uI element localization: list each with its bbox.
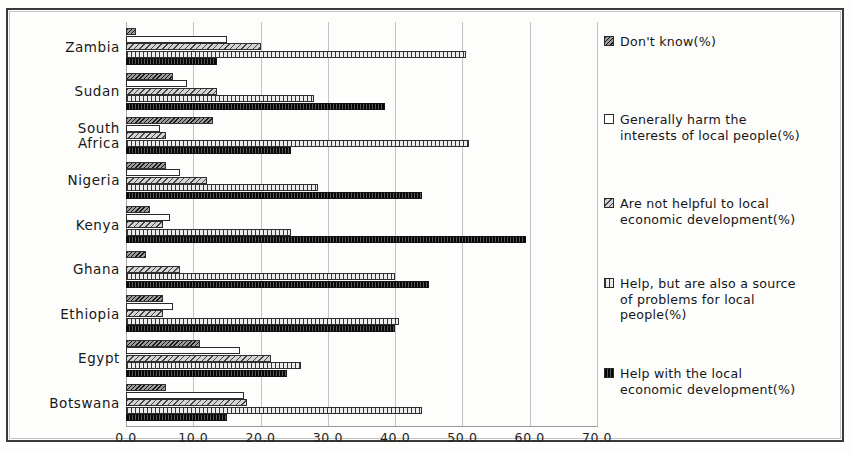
bar-group: [126, 22, 597, 67]
bar: [126, 95, 314, 102]
chart-page: ZambiaSudanSouthAfricaNigeriaKenyaGhanaE…: [0, 0, 852, 453]
legend-label-line: economic development(%): [620, 212, 795, 228]
legend-label: Don't know(%): [620, 34, 716, 50]
y-axis-label-line: South: [2, 121, 120, 136]
y-axis-label-line: Egypt: [2, 351, 120, 366]
x-axis-tick-label: 0.0: [115, 430, 137, 445]
y-axis-label-sudan: Sudan: [2, 84, 120, 99]
bar: [126, 362, 301, 369]
x-axis-tick-label: 10.0: [178, 430, 208, 445]
legend-swatch-icon: [604, 198, 614, 208]
bar: [126, 407, 422, 414]
bar: [126, 370, 287, 377]
x-axis-tick-label: 20.0: [245, 430, 275, 445]
bar: [126, 51, 466, 58]
y-axis-label-south-africa: SouthAfrica: [2, 121, 120, 151]
y-axis-label-zambia: Zambia: [2, 40, 120, 55]
legend-label: Help, but are also a sourceof problems f…: [620, 276, 796, 323]
bar: [126, 399, 247, 406]
y-axis-label-ethiopia: Ethiopia: [2, 307, 120, 322]
bar-group: [126, 378, 597, 423]
legend-label-line: Help, but are also a source: [620, 276, 796, 292]
bar: [126, 273, 395, 280]
bar-group: [126, 245, 597, 290]
y-axis-label-egypt: Egypt: [2, 351, 120, 366]
bar: [126, 303, 173, 310]
bar: [126, 221, 163, 228]
legend-label-line: Don't know(%): [620, 34, 716, 50]
bar: [126, 414, 227, 421]
legend-swatch-icon: [604, 368, 614, 378]
legend-label-line: Help with the local: [620, 366, 795, 382]
legend-swatch-icon: [604, 36, 614, 46]
bar: [126, 355, 271, 362]
x-axis-tick-label: 50.0: [447, 430, 477, 445]
bar: [126, 266, 180, 273]
legend-label-line: Generally harm the: [620, 112, 800, 128]
bar: [126, 103, 385, 110]
legend-label: Generally harm theinterests of local peo…: [620, 112, 800, 143]
bar: [126, 340, 200, 347]
bar: [126, 184, 318, 191]
bar: [126, 229, 291, 236]
bar: [126, 73, 173, 80]
bar: [126, 192, 422, 199]
y-axis-label-line: Kenya: [2, 218, 120, 233]
legend-label-line: economic development(%): [620, 382, 795, 398]
bar-group: [126, 289, 597, 334]
x-axis-tick-label: 70.0: [582, 430, 612, 445]
bar-group: [126, 111, 597, 156]
x-axis-tick-label: 40.0: [380, 430, 410, 445]
plot-area: [126, 22, 597, 426]
legend-item-harm[interactable]: Generally harm theinterests of local peo…: [604, 112, 842, 143]
legend-swatch-icon: [604, 278, 614, 288]
bar: [126, 162, 166, 169]
legend-label-line: Are not helpful to local: [620, 196, 795, 212]
legend-label-line: interests of local people(%): [620, 128, 800, 144]
bar: [126, 295, 163, 302]
x-axis-line: [126, 426, 598, 427]
bar: [126, 88, 217, 95]
bar: [126, 177, 207, 184]
bar: [126, 140, 469, 147]
legend-item-nothelp[interactable]: Are not helpful to localeconomic develop…: [604, 196, 842, 227]
y-axis-label-line: Zambia: [2, 40, 120, 55]
bar-group: [126, 156, 597, 201]
bar: [126, 236, 526, 243]
bar: [126, 117, 213, 124]
bar: [126, 347, 240, 354]
y-axis-labels: ZambiaSudanSouthAfricaNigeriaKenyaGhanaE…: [0, 0, 120, 453]
x-axis-tick-label: 30.0: [313, 430, 343, 445]
legend-item-dontknow[interactable]: Don't know(%): [604, 34, 842, 50]
bar: [126, 325, 395, 332]
y-axis-label-ghana: Ghana: [2, 262, 120, 277]
bar: [126, 251, 146, 258]
bar-group: [126, 67, 597, 112]
bar: [126, 58, 217, 65]
y-axis-label-line: Africa: [2, 136, 120, 151]
bar: [126, 206, 150, 213]
legend-label: Are not helpful to localeconomic develop…: [620, 196, 795, 227]
bar: [126, 310, 163, 317]
legend-label-line: people(%): [620, 307, 796, 323]
gridline-70: [597, 22, 598, 426]
legend-label: Help with the localeconomic development(…: [620, 366, 795, 397]
bar: [126, 43, 261, 50]
bar-group: [126, 200, 597, 245]
bar: [126, 125, 160, 132]
bar: [126, 147, 291, 154]
y-axis-label-line: Ghana: [2, 262, 120, 277]
bar-group: [126, 334, 597, 379]
y-axis-label-line: Ethiopia: [2, 307, 120, 322]
legend-item-helpbut[interactable]: Help, but are also a sourceof problems f…: [604, 276, 842, 323]
bar: [126, 392, 244, 399]
y-axis-label-line: Nigeria: [2, 173, 120, 188]
bar: [126, 281, 429, 288]
y-axis-label-nigeria: Nigeria: [2, 173, 120, 188]
legend-label-line: of problems for local: [620, 292, 796, 308]
bar: [126, 28, 136, 35]
bar: [126, 80, 187, 87]
legend-item-helpwith[interactable]: Help with the localeconomic development(…: [604, 366, 842, 397]
bar: [126, 318, 399, 325]
bar: [126, 384, 166, 391]
